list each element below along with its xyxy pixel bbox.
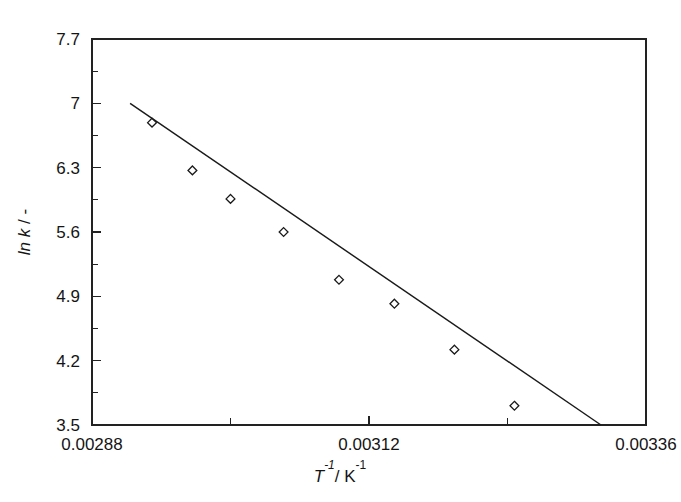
y-tick-label-2: 7	[71, 94, 80, 113]
x-axis-title-unit-exponent: -1	[356, 458, 367, 472]
svg-text:ln k / -: ln k / -	[15, 209, 34, 255]
x-tick-label-0: 0.00288	[61, 435, 122, 454]
y-tick-label-6: 5.6	[56, 223, 80, 242]
y-tick-label-4: 6.3	[56, 159, 80, 178]
y-tick-label-10: 4.2	[56, 352, 80, 371]
chart-canvas: 7.776.35.64.94.23.50.002880.003120.00336…	[0, 0, 681, 502]
y-tick-label-12: 3.5	[56, 416, 80, 435]
x-axis-title-separator: /	[335, 467, 344, 486]
x-tick-label-2: 0.00312	[338, 435, 399, 454]
x-axis-title-unit: K	[344, 467, 356, 486]
figure-background	[0, 0, 681, 502]
x-tick-label-4: 0.00336	[615, 435, 676, 454]
y-axis-title-func: ln k	[15, 227, 34, 255]
y-tick-label-0: 7.7	[56, 30, 80, 49]
y-axis-title: ln k / -	[15, 209, 34, 255]
arrhenius-plot-figure: 7.776.35.64.94.23.50.002880.003120.00336…	[0, 0, 681, 502]
y-tick-label-8: 4.9	[56, 287, 80, 306]
x-axis-title-symbol-exponent: -1	[324, 458, 335, 472]
y-axis-title-sep: /	[15, 215, 34, 224]
y-axis-title-unit: -	[15, 209, 34, 215]
